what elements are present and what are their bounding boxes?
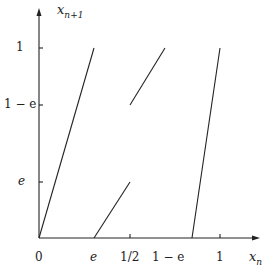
x-tick-label-e: e	[90, 250, 97, 264]
y-tick-label-1: 1	[16, 40, 24, 54]
x-axis-sub: n	[256, 257, 262, 267]
x-tick-label-1: 1	[216, 250, 224, 264]
x-tick-label-1-minus-e: 1 − e	[152, 250, 184, 264]
x-axis-arrow-icon	[252, 236, 260, 241]
y-tick-label-e: e	[18, 174, 25, 188]
y-axis-sub: n+1	[64, 10, 83, 20]
segment-3	[130, 48, 165, 105]
map-plot	[0, 0, 267, 271]
segment-4	[192, 48, 220, 238]
x-tick-label-half: 1/2	[120, 250, 139, 264]
segment-2	[94, 182, 130, 238]
y-axis-label: xn+1	[57, 2, 83, 20]
x-tick-label-0: 0	[35, 250, 43, 264]
y-tick-label-1-minus-e: 1 − e	[4, 97, 36, 111]
segment-1	[39, 48, 94, 238]
y-axis-arrow-icon	[37, 8, 42, 16]
x-axis-label: xn	[249, 249, 262, 267]
